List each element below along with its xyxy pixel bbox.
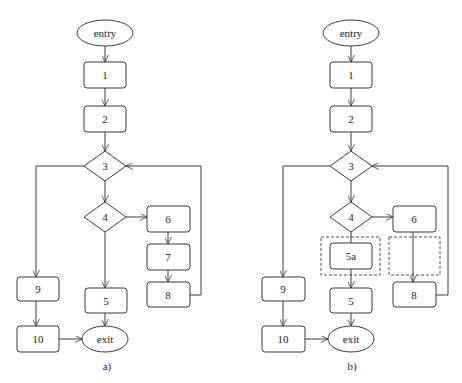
node-9: 9 (262, 277, 305, 301)
decision-4: 4 (330, 202, 372, 232)
node-exit: exit (328, 326, 374, 352)
node-label: 9 (35, 283, 41, 295)
node-label: 4 (348, 211, 354, 223)
caption-a: a) (103, 360, 112, 373)
node-2: 2 (84, 106, 126, 132)
node-1: 1 (84, 62, 126, 88)
node-6: 6 (393, 206, 436, 232)
node-label: 9 (280, 283, 286, 295)
node-label: 8 (411, 289, 417, 301)
node-label: 6 (411, 213, 417, 225)
node-label: exit (343, 333, 360, 345)
node-label: 7 (165, 251, 171, 263)
node-8: 8 (147, 282, 190, 307)
decision-3: 3 (84, 151, 126, 181)
edge-3-9 (36, 166, 84, 277)
node-label: entry (340, 27, 363, 39)
node-6: 6 (147, 206, 190, 232)
node-5: 5 (330, 288, 372, 313)
decision-4: 4 (84, 202, 126, 232)
node-9: 9 (17, 277, 59, 301)
node-label: 1 (102, 69, 108, 81)
node-label: 3 (102, 160, 108, 172)
node-label: exit (97, 333, 114, 345)
node-5a: 5a (330, 243, 372, 269)
panel-b: entry 1 2 3 4 5a 6 8 (262, 20, 448, 373)
node-1: 1 (330, 62, 372, 88)
node-label: 10 (278, 333, 290, 345)
node-label: 2 (102, 113, 108, 125)
node-label: 10 (33, 333, 45, 345)
node-label: entry (94, 27, 117, 39)
caption-b: b) (347, 360, 357, 373)
node-label: 2 (348, 113, 354, 125)
edge-3-9 (283, 166, 330, 277)
node-entry: entry (323, 20, 379, 46)
node-entry: entry (77, 20, 133, 46)
node-label: 5 (348, 295, 354, 307)
node-5: 5 (85, 288, 127, 313)
node-10: 10 (17, 326, 59, 352)
node-label: 5 (103, 295, 109, 307)
node-2: 2 (330, 106, 372, 132)
control-flow-diagrams: entry 1 2 3 4 6 7 8 (0, 0, 462, 383)
node-label: 8 (165, 289, 171, 301)
decision-3: 3 (330, 151, 372, 181)
node-8: 8 (393, 282, 436, 307)
node-label: 5a (346, 250, 357, 262)
panel-a: entry 1 2 3 4 6 7 8 (17, 20, 201, 373)
node-10: 10 (262, 326, 305, 352)
dashed-group-empty (389, 237, 440, 275)
node-label: 4 (102, 211, 108, 223)
node-label: 3 (348, 160, 354, 172)
node-label: 6 (165, 213, 171, 225)
node-7: 7 (147, 244, 190, 270)
node-label: 1 (348, 69, 354, 81)
node-exit: exit (82, 326, 128, 352)
